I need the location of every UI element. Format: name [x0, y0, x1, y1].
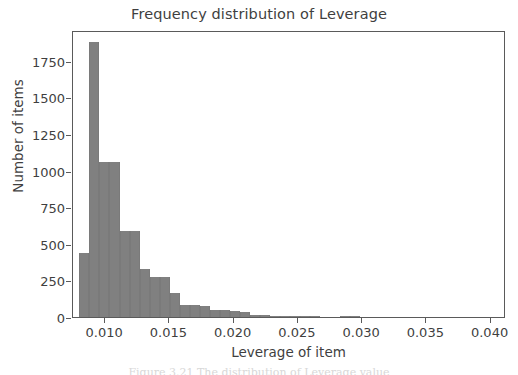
histogram-bar — [220, 310, 230, 317]
histogram-bar — [340, 316, 350, 317]
x-tick-label: 0.015 — [150, 326, 187, 339]
histogram-bar — [120, 231, 130, 317]
y-tick-mark — [66, 281, 71, 282]
y-tick-mark — [66, 208, 71, 209]
histogram-bar — [240, 312, 250, 317]
x-tick-mark — [361, 318, 362, 323]
x-tick-label: 0.035 — [407, 326, 444, 339]
histogram-bar — [79, 253, 89, 317]
x-tick-mark — [490, 318, 491, 323]
y-tick-mark — [66, 135, 71, 136]
histogram-bar — [210, 310, 220, 317]
x-axis-tick-labels: 0.0100.0150.0200.0250.0300.0350.040 — [72, 326, 505, 344]
histogram-bar — [170, 293, 180, 317]
histogram-bar — [290, 316, 300, 317]
x-tick-label: 0.040 — [471, 326, 508, 339]
plot-area — [72, 31, 505, 318]
histogram-bar — [180, 305, 190, 317]
y-tick-mark — [66, 172, 71, 173]
histogram-bar — [280, 316, 290, 317]
x-tick-mark — [297, 318, 298, 323]
histogram-bar — [130, 231, 140, 317]
y-tick-mark — [66, 98, 71, 99]
x-tick-label: 0.030 — [342, 326, 379, 339]
x-axis-label: Leverage of item — [72, 344, 505, 360]
y-tick-mark — [66, 62, 71, 63]
x-tick-label: 0.010 — [86, 326, 123, 339]
x-tick-label: 0.020 — [214, 326, 251, 339]
histogram-bar — [350, 316, 360, 317]
histogram-bar — [270, 316, 280, 317]
histogram-bar — [300, 316, 310, 317]
histogram-bar — [260, 315, 270, 317]
y-axis-tick-marks — [0, 31, 72, 318]
x-tick-mark — [233, 318, 234, 323]
histogram-bar — [310, 316, 320, 317]
x-tick-mark — [168, 318, 169, 323]
histogram-bar — [150, 277, 160, 317]
histogram-bar — [250, 315, 260, 317]
x-tick-mark — [425, 318, 426, 323]
figure-caption: Figure 3.21 The distribution of Leverage… — [0, 366, 518, 375]
histogram-bar — [89, 42, 99, 317]
figure-container: Frequency distribution of Leverage Numbe… — [0, 0, 518, 375]
histogram-bar — [140, 269, 150, 317]
histogram-bar — [230, 311, 240, 317]
histogram-bar — [190, 305, 200, 317]
chart-title: Frequency distribution of Leverage — [0, 6, 518, 22]
y-tick-mark — [66, 318, 71, 319]
y-tick-mark — [66, 245, 71, 246]
histogram-bar — [200, 306, 210, 317]
histogram-bar — [99, 162, 109, 317]
histogram-bar — [109, 162, 119, 317]
histogram-bars — [73, 32, 504, 317]
x-tick-mark — [104, 318, 105, 323]
x-tick-label: 0.025 — [278, 326, 315, 339]
histogram-bar — [160, 277, 170, 317]
